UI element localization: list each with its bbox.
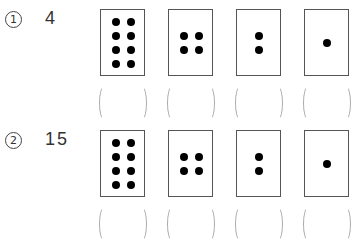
dot-card-4 [168,130,213,197]
dot-icon [127,139,135,147]
dot-icon [112,32,120,40]
dot-icon [255,167,263,175]
answer-blank[interactable] [235,86,283,122]
dot-icon [127,18,135,26]
problem-number: 1 [5,8,22,28]
dot-icon [112,46,120,54]
dot-icon [255,46,263,54]
problem-2: 215 [0,121,356,241]
dot-icon [255,32,263,40]
answer-blank[interactable] [303,86,351,122]
dot-card-8 [100,130,145,197]
circled-number-icon: 1 [5,11,22,28]
dot-card-2 [236,130,281,197]
dot-icon [127,153,135,161]
target-number: 15 [45,129,69,150]
dot-icon [112,167,120,175]
dot-card-2 [236,9,281,76]
dot-icon [112,18,120,26]
dot-icon [180,32,188,40]
target-number: 4 [45,8,57,29]
answer-blank[interactable] [303,207,351,243]
dot-icon [112,139,120,147]
dot-icon [127,32,135,40]
dot-icon [180,46,188,54]
problem-1: 14 [0,0,356,120]
dot-card-1 [304,130,349,197]
dot-icon [112,181,120,189]
dot-icon [195,153,203,161]
dot-icon [323,160,331,168]
dot-icon [127,167,135,175]
dot-icon [255,153,263,161]
dot-icon [127,181,135,189]
dot-card-4 [168,9,213,76]
dot-icon [180,167,188,175]
problem-number: 2 [5,129,22,149]
answer-blank[interactable] [235,207,283,243]
dot-icon [180,153,188,161]
dot-icon [323,39,331,47]
answer-blank[interactable] [99,86,147,122]
dot-icon [112,60,120,68]
dot-card-8 [100,9,145,76]
dot-icon [112,153,120,161]
dot-icon [127,46,135,54]
dot-icon [195,167,203,175]
dot-icon [127,60,135,68]
answer-blank[interactable] [167,86,215,122]
answer-blank[interactable] [167,207,215,243]
circled-number-icon: 2 [5,132,22,149]
dot-icon [195,32,203,40]
dot-icon [195,46,203,54]
answer-blank[interactable] [99,207,147,243]
dot-card-1 [304,9,349,76]
